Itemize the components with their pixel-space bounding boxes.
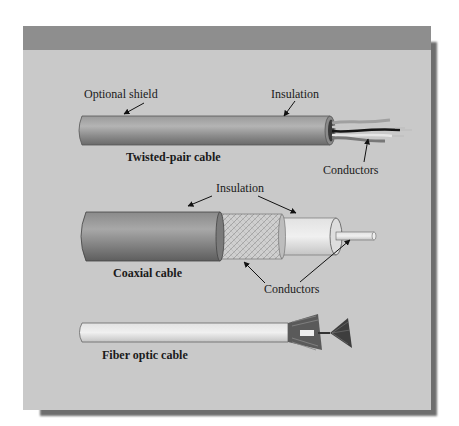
label-conductors-twisted-pair: Conductors (323, 163, 378, 178)
label-optional-shield: Optional shield (84, 87, 158, 102)
label-coaxial-cable: Coaxial cable (113, 266, 182, 281)
label-insulation-twisted-pair: Insulation (271, 87, 319, 102)
label-insulation-coaxial: Insulation (216, 181, 264, 196)
label-conductors-coaxial: Conductors (264, 282, 319, 297)
coaxial-cable-graphic (81, 212, 376, 261)
label-twisted-pair-cable: Twisted-pair cable (126, 150, 221, 165)
fiber-optic-cable-graphic (80, 314, 353, 350)
twisted-pair-cable-graphic (79, 116, 412, 145)
label-fiber-optic-cable: Fiber optic cable (102, 348, 188, 363)
cable-illustrations (0, 0, 459, 426)
